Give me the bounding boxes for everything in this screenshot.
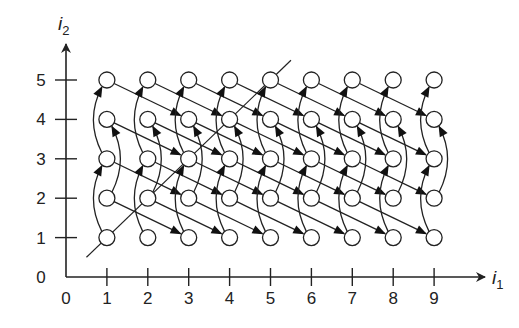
- y-axis-label: i2: [58, 13, 69, 38]
- dependence-diagram: 0123456789012345i1i2: [0, 0, 519, 328]
- iteration-node: [303, 190, 319, 206]
- iteration-node: [426, 190, 442, 206]
- iteration-node: [99, 72, 115, 88]
- iteration-node: [385, 190, 401, 206]
- x-tick-label: 0: [61, 289, 70, 308]
- x-tick-label: 8: [388, 289, 397, 308]
- y-tick-label: 0: [36, 268, 45, 287]
- iteration-node: [181, 190, 197, 206]
- iteration-node: [222, 111, 238, 127]
- iteration-node: [426, 72, 442, 88]
- iteration-node: [140, 190, 156, 206]
- iteration-node: [140, 151, 156, 167]
- iteration-node: [426, 230, 442, 246]
- iteration-node: [344, 151, 360, 167]
- iteration-node: [344, 230, 360, 246]
- iteration-node: [426, 151, 442, 167]
- iteration-node: [303, 151, 319, 167]
- y-tick-label: 5: [36, 71, 45, 90]
- iteration-node: [385, 111, 401, 127]
- iteration-node: [344, 111, 360, 127]
- y-tick-label: 1: [36, 229, 45, 248]
- iteration-node: [140, 111, 156, 127]
- iteration-node: [181, 72, 197, 88]
- x-tick-label: 1: [102, 289, 111, 308]
- x-axis-label: i1: [492, 267, 503, 292]
- y-tick-label: 4: [36, 110, 45, 129]
- iteration-node: [222, 230, 238, 246]
- iteration-node: [263, 111, 279, 127]
- iteration-node: [181, 151, 197, 167]
- iteration-node: [344, 190, 360, 206]
- iteration-node: [263, 190, 279, 206]
- iteration-node: [385, 151, 401, 167]
- iteration-node: [303, 72, 319, 88]
- iteration-node: [140, 230, 156, 246]
- iteration-node: [426, 111, 442, 127]
- iteration-node: [303, 230, 319, 246]
- iteration-node: [222, 72, 238, 88]
- x-tick-label: 3: [184, 289, 193, 308]
- x-tick-label: 6: [307, 289, 316, 308]
- iteration-node: [181, 230, 197, 246]
- iteration-node: [263, 151, 279, 167]
- x-tick-label: 7: [348, 289, 357, 308]
- iteration-node: [303, 111, 319, 127]
- x-tick-label: 2: [143, 289, 152, 308]
- iteration-node: [263, 230, 279, 246]
- iteration-node: [385, 72, 401, 88]
- iteration-node: [99, 230, 115, 246]
- iteration-node: [222, 190, 238, 206]
- iteration-node: [344, 72, 360, 88]
- iteration-node: [263, 72, 279, 88]
- iteration-node: [222, 151, 238, 167]
- iteration-node: [99, 190, 115, 206]
- iteration-node: [181, 111, 197, 127]
- x-tick-label: 4: [225, 289, 234, 308]
- iteration-node: [99, 111, 115, 127]
- iteration-node: [99, 151, 115, 167]
- iteration-node: [385, 230, 401, 246]
- iteration-node: [140, 72, 156, 88]
- y-tick-label: 2: [36, 189, 45, 208]
- y-tick-label: 3: [36, 150, 45, 169]
- x-tick-label: 5: [266, 289, 275, 308]
- x-tick-label: 9: [429, 289, 438, 308]
